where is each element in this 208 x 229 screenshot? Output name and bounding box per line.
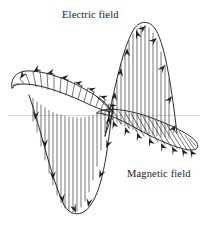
magnetic-field-label: Magnetic field bbox=[127, 168, 191, 179]
magnetic-field-lines-upper bbox=[13, 72, 109, 111]
em-wave-figure: Electric field Magnetic field bbox=[0, 0, 208, 229]
magnetic-lobe-upper bbox=[12, 65, 117, 112]
magnetic-lobe-lower bbox=[97, 109, 198, 158]
electric-lobe-up bbox=[105, 22, 177, 138]
field-graphics bbox=[12, 22, 198, 213]
electric-field-label: Electric field bbox=[62, 9, 119, 20]
em-wave-diagram bbox=[0, 0, 208, 229]
magnetic-arrowheads-upper bbox=[20, 65, 117, 111]
